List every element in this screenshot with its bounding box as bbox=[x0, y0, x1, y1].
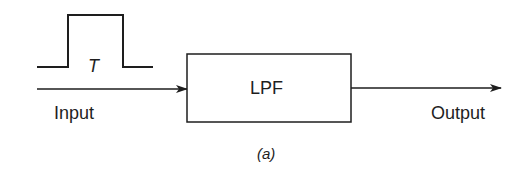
pulse-width-label: T bbox=[88, 56, 99, 77]
figure-caption: (a) bbox=[257, 145, 275, 162]
input-label: Input bbox=[54, 103, 94, 124]
output-label: Output bbox=[431, 103, 485, 124]
lpf-block-label: LPF bbox=[250, 78, 283, 99]
